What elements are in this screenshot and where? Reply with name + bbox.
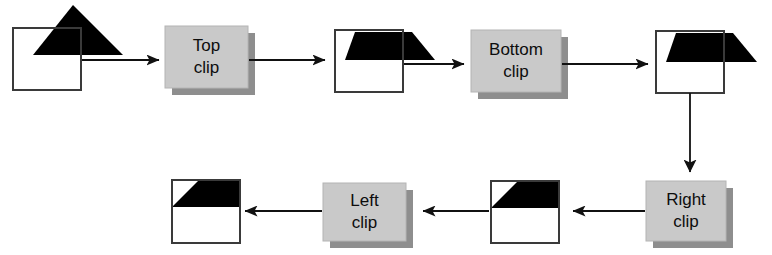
- right-clip-label-line2: clip: [673, 212, 699, 231]
- top-clip-process[interactable]: Top clip: [165, 26, 255, 95]
- left-clip-label-line2: clip: [352, 213, 378, 232]
- top-clip-label-line1: Top: [193, 36, 220, 55]
- clipping-pipeline-diagram: Top clip Bottom clip: [0, 0, 772, 255]
- top-clipped-polygon-icon: [345, 32, 435, 60]
- diagram-canvas: Top clip Bottom clip: [0, 0, 772, 255]
- top-clip-label-line2: clip: [194, 58, 220, 77]
- stage-final-clipped-shape: [172, 180, 240, 243]
- stage-input-triangle-with-window: [13, 5, 123, 90]
- bottom-clip-process[interactable]: Bottom clip: [471, 30, 568, 99]
- bottom-clip-label-line2: clip: [503, 62, 529, 81]
- stage-right-clipped-shape: [491, 181, 559, 243]
- stage-bottom-clipped-shape: [656, 31, 757, 93]
- bottom-clip-box: [471, 30, 561, 92]
- left-clip-label-line1: Left: [350, 191, 379, 210]
- right-clipped-polygon-icon: [491, 181, 559, 208]
- bottom-clipped-polygon-icon: [666, 33, 757, 62]
- top-clip-box: [165, 26, 248, 88]
- final-clipped-polygon-icon: [172, 180, 240, 207]
- input-triangle-icon: [33, 5, 123, 55]
- left-clip-process[interactable]: Left clip: [323, 183, 413, 248]
- bottom-clip-label-line1: Bottom: [489, 40, 543, 59]
- right-clip-label-line1: Right: [666, 190, 706, 209]
- right-clip-process[interactable]: Right clip: [646, 181, 733, 248]
- stage-top-clipped-shape: [335, 30, 435, 92]
